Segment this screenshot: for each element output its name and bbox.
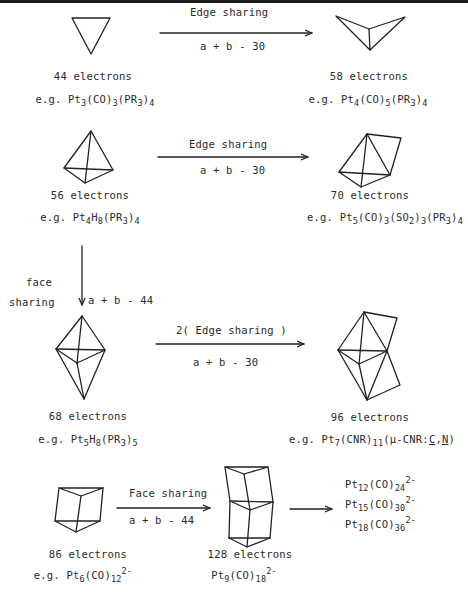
vertical-arrow-formula: a + b - 44 [88, 294, 153, 306]
arrow-bottom-label-3: a + b - 30 [193, 356, 258, 368]
example-formula-86: e.g. Pt6(CO)122- [34, 569, 132, 581]
edge-bridged-tetrahedron-shape [339, 134, 401, 187]
electron-count-86: 86 electrons [49, 548, 127, 560]
butterfly-shape [336, 16, 405, 50]
higher-cluster-pt12: Pt12(CO)242- [345, 478, 416, 490]
sharing-label: sharing [9, 296, 55, 308]
electron-count-56: 56 electrons [51, 189, 129, 201]
arrow-top-label-4: Face sharing [129, 487, 207, 499]
arrow-top-label-3: 2( Edge sharing ) [176, 324, 287, 336]
example-formula-68: e.g. Pt5H8(PR3)5 [38, 433, 138, 445]
example-formula-58: e.g. Pt4(CO)5(PR3)4 [308, 93, 427, 105]
example-formula-44: e.g. Pt3(CO)3(PR3)4 [35, 93, 154, 105]
electron-count-58: 58 electrons [330, 70, 408, 82]
example-formula-128: Pt9(CO)182- [211, 569, 277, 581]
electron-count-44: 44 electrons [54, 70, 132, 82]
trigonal-bipyramid-shape [56, 316, 105, 399]
higher-cluster-pt15: Pt15(CO)302- [345, 498, 416, 510]
arrow-bottom-label-2: a + b - 30 [200, 164, 265, 176]
face-sharing-biprism-shape [225, 467, 273, 547]
doubly-edge-bridged-bipyramid-shape [338, 312, 400, 400]
arrow-top-label-2: Edge sharing [189, 138, 267, 150]
arrow-top-label-1: Edge sharing [190, 6, 268, 18]
higher-cluster-pt18: Pt18(CO)362- [345, 518, 416, 530]
example-formula-96: e.g. Pt7(CNR)11(μ-CNR:C,N) [289, 433, 455, 445]
electron-count-128: 128 electrons [208, 548, 293, 560]
example-formula-56: e.g. Pt4H8(PR3)4 [40, 211, 140, 223]
electron-count-96: 96 electrons [331, 411, 409, 423]
electron-count-68: 68 electrons [49, 410, 127, 422]
arrow-bottom-label-4: a + b - 44 [129, 514, 194, 526]
electron-count-70: 70 electrons [331, 189, 409, 201]
triangle-shape [72, 18, 110, 54]
tetrahedron-shape [64, 131, 113, 183]
face-label: face [26, 276, 52, 288]
trigonal-prism-shape [55, 488, 103, 532]
example-formula-70: e.g. Pt5(CO)3(SO2)3(PR3)4 [307, 211, 463, 223]
arrow-bottom-label-1: a + b - 30 [200, 40, 265, 52]
